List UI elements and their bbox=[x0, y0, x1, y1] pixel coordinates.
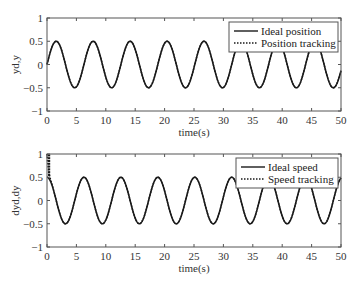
x-tick-label: 20 bbox=[159, 114, 171, 126]
y-tick-label: 0.5 bbox=[29, 171, 43, 183]
x-tick-label: 30 bbox=[218, 250, 230, 262]
transient-marker bbox=[48, 160, 50, 162]
y-tick-label: 0 bbox=[38, 195, 44, 207]
x-tick-label: 40 bbox=[277, 114, 289, 126]
legend-entry-label: Speed tracking bbox=[268, 173, 334, 185]
x-tick-label: 0 bbox=[44, 114, 50, 126]
x-tick-label: 20 bbox=[159, 250, 171, 262]
transient-marker bbox=[48, 154, 50, 156]
y-axis-label: dyd,dy bbox=[9, 185, 21, 216]
x-tick-label: 50 bbox=[336, 250, 348, 262]
y-tick-label: −0.5 bbox=[23, 218, 43, 230]
speed-plot: 05101520253035404550−1−0.500.51time(s)dy… bbox=[9, 148, 347, 275]
y-tick-label: −1 bbox=[31, 241, 43, 253]
x-tick-label: 30 bbox=[218, 114, 230, 126]
x-tick-label: 25 bbox=[189, 250, 201, 262]
x-tick-label: 35 bbox=[247, 114, 259, 126]
x-tick-label: 45 bbox=[306, 250, 318, 262]
legend-entry-label: Position tracking bbox=[261, 37, 336, 49]
y-axis-label: yd,y bbox=[9, 54, 21, 74]
x-tick-label: 40 bbox=[277, 250, 289, 262]
y-tick-label: −1 bbox=[31, 105, 43, 117]
y-tick-label: −0.5 bbox=[23, 82, 43, 94]
x-tick-label: 50 bbox=[336, 114, 348, 126]
transient-marker bbox=[48, 171, 50, 173]
legend-entry-label: Ideal speed bbox=[268, 161, 318, 173]
y-tick-label: 0 bbox=[38, 59, 44, 71]
legend-entry-label: Ideal position bbox=[261, 25, 322, 37]
x-tick-label: 45 bbox=[306, 114, 318, 126]
transient-marker bbox=[48, 174, 50, 176]
transient-marker bbox=[48, 166, 50, 168]
x-tick-label: 10 bbox=[100, 114, 112, 126]
transient-marker bbox=[48, 168, 50, 170]
x-tick-label: 35 bbox=[247, 250, 259, 262]
legend: Ideal positionPosition tracking bbox=[229, 22, 338, 52]
x-tick-label: 0 bbox=[44, 250, 50, 262]
x-tick-label: 25 bbox=[189, 114, 201, 126]
transient-marker bbox=[48, 163, 50, 165]
y-tick-label: 1 bbox=[38, 12, 44, 24]
x-tick-label: 15 bbox=[130, 114, 142, 126]
x-tick-label: 5 bbox=[74, 114, 80, 126]
x-tick-label: 15 bbox=[130, 250, 142, 262]
x-tick-label: 5 bbox=[74, 250, 80, 262]
y-tick-label: 0.5 bbox=[29, 35, 43, 47]
figure: 05101520253035404550−1−0.500.51time(s)yd… bbox=[0, 0, 355, 290]
y-tick-label: 1 bbox=[38, 148, 44, 160]
transient-marker bbox=[48, 157, 50, 159]
x-axis-label: time(s) bbox=[178, 262, 209, 275]
x-axis-label: time(s) bbox=[178, 126, 209, 139]
legend: Ideal speedSpeed tracking bbox=[236, 158, 338, 188]
position-plot: 05101520253035404550−1−0.500.51time(s)yd… bbox=[9, 12, 347, 139]
x-tick-label: 10 bbox=[100, 250, 112, 262]
